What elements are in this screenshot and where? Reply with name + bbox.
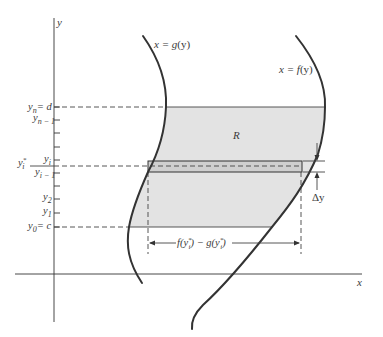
curve-f-label: x = f(y) — [278, 63, 313, 76]
region-between-curves-diagram: y x x = g(y) x = f(y) R yn= d yn − 1 yi … — [0, 0, 383, 337]
curve-g-label: x = g(y) — [153, 38, 190, 51]
x-axis-label: x — [356, 276, 362, 288]
arrowhead-left-icon — [149, 241, 155, 246]
tick-label-yi: yi — [43, 153, 51, 167]
tick-label-yn-minus-1: yn − 1 — [32, 112, 55, 126]
representative-strip — [148, 161, 302, 172]
region-label: R — [232, 129, 240, 141]
tick-label-ystar: y*i — [17, 156, 27, 171]
arrowhead-up-icon — [315, 172, 320, 178]
tick-label-yi-minus-1: yi − 1 — [34, 166, 55, 180]
delta-y-label: Δy — [312, 191, 325, 203]
tick-label-y0: y0= c — [27, 220, 51, 234]
tick-label-y1: y1 — [42, 205, 52, 219]
tick-label-yn: yn= d — [27, 101, 52, 115]
width-label: f(y*i) − g(y*i) — [177, 236, 226, 251]
tick-label-y2: y2 — [42, 191, 52, 205]
y-axis-label: y — [56, 16, 62, 28]
arrowhead-right-icon — [294, 241, 300, 246]
